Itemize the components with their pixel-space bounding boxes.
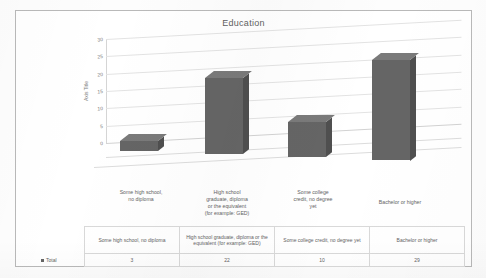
y-tick-label: 15 [97, 88, 103, 94]
table-header-cell: Bachelor or higher [370, 227, 465, 254]
y-tick-label: 20 [97, 71, 103, 77]
table-corner-cell [38, 227, 85, 254]
scanned-page: Education Axis Title 30 25 20 15 [0, 0, 486, 278]
bar-side-face [243, 73, 249, 154]
bar-front-face [205, 78, 243, 154]
series-name: Total [46, 257, 57, 263]
table-value-cell: 29 [370, 254, 465, 267]
y-tick-label: 25 [97, 53, 103, 59]
table-header-cell: High school graduate, diploma or the equ… [180, 227, 275, 254]
bar-some-high-school[interactable] [120, 141, 158, 151]
bar-top-face [372, 53, 419, 60]
chart-object-frame: Education Axis Title 30 25 20 15 [15, 10, 472, 267]
bar-side-face [326, 118, 332, 157]
bar-front-face [288, 122, 326, 157]
bar-side-face [410, 55, 416, 160]
bar-high-school-graduate[interactable] [205, 78, 243, 154]
y-axis-title: Axis Title [83, 81, 89, 101]
table-value-cell: 3 [85, 254, 180, 267]
series-legend-cell: Total [38, 254, 85, 267]
table-value-cell: 22 [180, 254, 275, 267]
table-header-row: Some high school, no diploma High school… [38, 227, 465, 254]
category-label-some-college-credit: Some college credit, no degree yet [270, 189, 356, 210]
y-tick-label: 5 [100, 123, 103, 129]
category-label-high-school-graduate: High school graduate, diploma or the equ… [184, 189, 270, 217]
y-tick-label: 10 [97, 105, 103, 111]
plot-area: Axis Title 30 25 20 15 10 [72, 39, 462, 159]
table-value-cell: 10 [275, 254, 370, 267]
bar-front-face [120, 141, 158, 151]
table-header-cell: Some college credit, no degree yet [275, 227, 370, 254]
category-label-some-high-school: Some high school, no diploma [98, 189, 184, 203]
chart-data-table: Some high school, no diploma High school… [38, 226, 465, 267]
table-header-cell: Some high school, no diploma [85, 227, 180, 254]
table-row: Total 3 22 10 29 [38, 254, 465, 267]
y-tick-label: 30 [97, 36, 103, 42]
bar-some-college-credit[interactable] [288, 122, 326, 157]
bar-bachelor-or-higher[interactable] [372, 60, 410, 161]
bar-front-face [372, 60, 410, 161]
legend-swatch-icon [41, 259, 44, 262]
category-label-bachelor-or-higher: Bachelor or higher [354, 199, 446, 206]
